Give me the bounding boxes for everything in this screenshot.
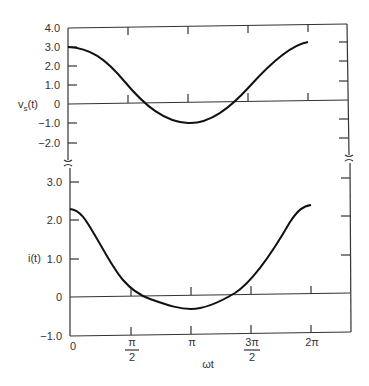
axis-break-left [64,160,72,336]
upper-x-ticks [128,24,308,103]
upper-ytick-label: 0 [54,98,60,110]
upper-ylabel: vs(t) [18,98,38,113]
upper-ytick-label: −1.0 [38,117,60,129]
axis-break-right [345,155,353,332]
xtick-pi-2-den: 2 [129,351,135,363]
upper-ytick-label: 1.0 [45,79,60,91]
lower-zero-line [70,293,350,297]
lower-ytick-label: −1.0 [40,330,62,342]
xtick-2pi: 2π [305,336,319,348]
x-axis-label: ωt [202,358,214,370]
lower-ytick-label: 2.0 [47,214,62,226]
xtick-pi: π [188,336,196,348]
lower-ylabel: i(t) [28,252,41,264]
lower-y-ticks [70,178,350,259]
xtick-pi-2-num: π [128,336,136,348]
upper-zero-line [68,100,348,104]
lower-ytick-label: 1.0 [47,253,62,265]
lower-ytick-label: 3.0 [47,176,62,188]
upper-ytick-label: 2.0 [45,60,60,72]
xtick-0: 0 [70,340,76,352]
upper-ytick-label: −2.0 [38,137,60,149]
upper-ytick-label: 3.0 [45,41,60,53]
upper-y-ticks [68,42,348,143]
vs-curve [68,42,308,123]
chart-canvas: 4.0 3.0 2.0 1.0 0 −1.0 −2.0 vs(t) 3.0 2.… [0,0,369,386]
upper-ytick-label: 4.0 [45,22,60,34]
upper-top-border [68,24,347,28]
upper-right-border [347,24,349,155]
xtick-3pi-2-den: 2 [249,351,255,363]
lower-ytick-label: 0 [56,291,62,303]
xtick-3pi-2-num: 3π [245,336,259,348]
